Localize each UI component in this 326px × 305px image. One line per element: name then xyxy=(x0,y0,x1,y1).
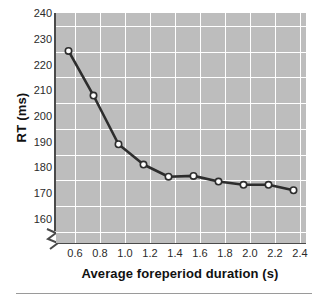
y-tick-label: 160 xyxy=(6,214,52,225)
data-series-rt xyxy=(56,13,306,243)
plot-area xyxy=(56,13,306,243)
x-tick-label: 2.4 xyxy=(283,248,317,259)
data-point-marker xyxy=(265,182,271,188)
y-axis-title: RT (ms) xyxy=(14,58,29,178)
y-tick-label: 170 xyxy=(6,188,52,199)
figure-bottom-rule xyxy=(16,293,312,294)
data-point-marker xyxy=(190,173,196,179)
data-point-marker xyxy=(165,174,171,180)
y-tick-label: 230 xyxy=(6,34,52,45)
data-point-marker xyxy=(290,187,296,193)
y-tick-label: 240 xyxy=(6,8,52,19)
data-point-marker xyxy=(215,178,221,184)
chart-figure: 240 230 220 210 200 190 180 170 160 RT (… xyxy=(0,0,326,305)
data-point-marker xyxy=(240,182,246,188)
data-point-marker xyxy=(140,161,146,167)
x-axis-title: Average foreperiod duration (s) xyxy=(40,266,320,281)
data-point-marker xyxy=(65,48,71,54)
data-point-marker xyxy=(90,92,96,98)
data-point-marker xyxy=(115,141,121,147)
